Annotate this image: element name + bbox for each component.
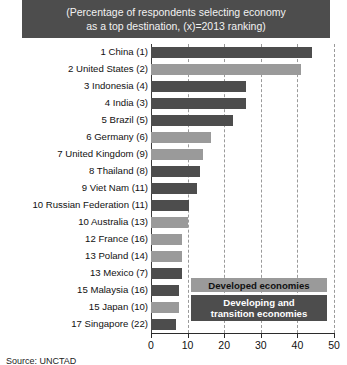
chart-legend: Developed economies Developing and trans… bbox=[191, 278, 327, 321]
bar bbox=[151, 64, 301, 75]
bar bbox=[151, 285, 179, 296]
category-label: 9 Viet Nam (11) bbox=[2, 181, 148, 194]
category-label: 15 Malaysia (16) bbox=[2, 283, 148, 296]
x-tick-label-0: 0 bbox=[131, 339, 171, 351]
bar bbox=[151, 268, 182, 279]
bar bbox=[151, 217, 188, 228]
legend-item-developing: Developing and transition economies bbox=[191, 295, 327, 321]
bar-row: 10 Australia (13) bbox=[0, 214, 347, 231]
category-label: 15 Japan (10) bbox=[2, 300, 148, 313]
category-label: 4 India (3) bbox=[2, 96, 148, 109]
source-note: Source: UNCTAD bbox=[6, 356, 76, 365]
bar-row: 7 United Kingdom (9) bbox=[0, 146, 347, 163]
chart-title-line-1: (Percentage of respondents selecting eco… bbox=[66, 5, 285, 19]
bar-row: 13 Poland (14) bbox=[0, 248, 347, 265]
x-tick-label-10: 10 bbox=[168, 339, 208, 351]
category-label: 3 Indonesia (4) bbox=[2, 79, 148, 92]
category-label: 10 Russian Federation (11) bbox=[2, 198, 148, 211]
bar bbox=[151, 115, 233, 126]
category-label: 8 Thailand (8) bbox=[2, 164, 148, 177]
legend-label-developing-line-2: transition economies bbox=[211, 308, 308, 319]
bar bbox=[151, 166, 200, 177]
x-tick-label-50: 50 bbox=[314, 339, 347, 351]
category-label: 1 China (1) bbox=[2, 45, 148, 58]
category-label: 13 Mexico (7) bbox=[2, 266, 148, 279]
category-label: 7 United Kingdom (9) bbox=[2, 147, 148, 160]
x-tick-label-30: 30 bbox=[241, 339, 281, 351]
bar bbox=[151, 132, 211, 143]
chart-figure: (Percentage of respondents selecting eco… bbox=[0, 0, 347, 365]
bar-row: 5 Brazil (5) bbox=[0, 112, 347, 129]
bar bbox=[151, 47, 312, 58]
chart-title-line-2: as a top destination, (x)=2013 ranking) bbox=[86, 19, 265, 33]
category-label: 2 United States (2) bbox=[2, 62, 148, 75]
bar bbox=[151, 234, 182, 245]
x-axis-line bbox=[151, 333, 334, 334]
bar bbox=[151, 98, 246, 109]
bar-row: 8 Thailand (8) bbox=[0, 163, 347, 180]
bar bbox=[151, 149, 203, 160]
x-tick-label-40: 40 bbox=[277, 339, 317, 351]
x-tick-label-20: 20 bbox=[204, 339, 244, 351]
bar bbox=[151, 251, 182, 262]
x-tick-50 bbox=[334, 333, 335, 338]
legend-label-developed: Developed economies bbox=[208, 280, 309, 291]
legend-label-developing-line-1: Developing and bbox=[211, 297, 308, 308]
bar bbox=[151, 319, 176, 330]
x-tick-10 bbox=[188, 333, 189, 338]
bar-row: 12 France (16) bbox=[0, 231, 347, 248]
legend-item-developed: Developed economies bbox=[191, 278, 327, 292]
bar-row: 2 United States (2) bbox=[0, 61, 347, 78]
x-tick-30 bbox=[261, 333, 262, 338]
category-label: 6 Germany (6) bbox=[2, 130, 148, 143]
bar bbox=[151, 302, 179, 313]
category-label: 5 Brazil (5) bbox=[2, 113, 148, 126]
x-tick-40 bbox=[297, 333, 298, 338]
bar-row: 10 Russian Federation (11) bbox=[0, 197, 347, 214]
bar bbox=[151, 81, 246, 92]
bar bbox=[151, 183, 197, 194]
bar-row: 9 Viet Nam (11) bbox=[0, 180, 347, 197]
category-label: 13 Poland (14) bbox=[2, 249, 148, 262]
x-tick-20 bbox=[224, 333, 225, 338]
bar-row: 1 China (1) bbox=[0, 44, 347, 61]
category-label: 17 Singapore (22) bbox=[2, 317, 148, 330]
x-tick-0 bbox=[151, 333, 152, 338]
category-label: 10 Australia (13) bbox=[2, 215, 148, 228]
bar-row: 4 India (3) bbox=[0, 95, 347, 112]
bar-row: 3 Indonesia (4) bbox=[0, 78, 347, 95]
bar-row: 6 Germany (6) bbox=[0, 129, 347, 146]
category-label: 12 France (16) bbox=[2, 232, 148, 245]
chart-title-band: (Percentage of respondents selecting eco… bbox=[22, 0, 330, 38]
bar bbox=[151, 200, 189, 211]
